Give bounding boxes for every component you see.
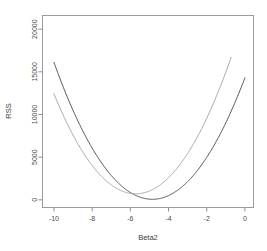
x-tick-label: -2 xyxy=(204,215,210,222)
x-tick-label: -4 xyxy=(165,215,171,222)
x-axis-title: Beta2 xyxy=(138,233,158,242)
y-tick-label: 10000 xyxy=(31,105,38,125)
y-axis-title: RSS xyxy=(4,103,13,118)
y-tick-label: 5000 xyxy=(31,149,38,165)
chart-container: 05000100001500020000 -10-8-6-4-20 Beta2 … xyxy=(0,0,267,251)
x-tick-label: -8 xyxy=(89,215,95,222)
x-tick-label: -6 xyxy=(127,215,133,222)
y-tick-label: 0 xyxy=(31,198,38,202)
rss-beta2-plot: 05000100001500020000 -10-8-6-4-20 Beta2 … xyxy=(0,0,267,251)
y-tick-label: 20000 xyxy=(31,19,38,39)
x-tick-label: 0 xyxy=(243,215,247,222)
plot-background xyxy=(0,0,267,251)
x-tick-label: -10 xyxy=(49,215,59,222)
y-tick-label: 15000 xyxy=(31,62,38,82)
